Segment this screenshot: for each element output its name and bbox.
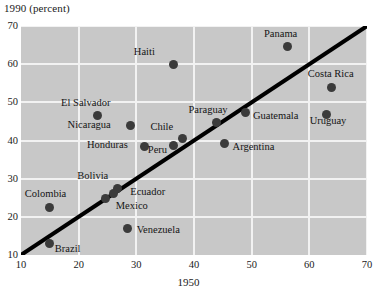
- data-point-label: Panama: [264, 28, 297, 39]
- data-point-label: Mexico: [116, 200, 148, 211]
- data-point-label: Bolivia: [77, 170, 108, 181]
- data-point: [327, 83, 336, 92]
- data-point: [109, 189, 118, 198]
- data-point: [45, 239, 54, 248]
- data-point: [126, 121, 135, 130]
- plot-area: HaitiPanamaCosta RicaEl SalvadorNicaragu…: [21, 26, 367, 255]
- y-tick-label: 60: [0, 59, 18, 69]
- data-point-label: Nicaragua: [68, 119, 111, 130]
- y-tick-label: 20: [0, 212, 18, 222]
- gridline-horizontal: [21, 63, 367, 65]
- y-axis-ticks: 10203040506070: [0, 26, 18, 255]
- y-tick-label: 40: [0, 136, 18, 146]
- data-point: [101, 194, 110, 203]
- data-point: [178, 134, 187, 143]
- data-point-label: Uruguay: [310, 115, 347, 126]
- data-point-label: Ecuador: [130, 186, 165, 197]
- x-axis-ticks: 10203040506070: [21, 259, 367, 273]
- gridline-horizontal: [21, 178, 367, 180]
- x-tick-label: 10: [6, 259, 36, 270]
- data-point: [220, 139, 229, 148]
- y-axis-title: 1990 (percent): [4, 2, 70, 14]
- data-point: [45, 203, 54, 212]
- gridline-horizontal: [21, 140, 367, 142]
- data-point-label: Chile: [150, 121, 173, 132]
- y-tick-label: 50: [0, 97, 18, 107]
- data-point-label: Colombia: [25, 188, 66, 199]
- data-point-label: Brazil: [55, 243, 81, 254]
- data-point-label: Argentina: [233, 141, 275, 152]
- data-point-label: Haiti: [134, 46, 155, 57]
- x-tick-label: 20: [64, 259, 94, 270]
- data-point-label: Paraguay: [188, 104, 227, 115]
- gridline-horizontal: [21, 216, 367, 218]
- data-point: [283, 42, 292, 51]
- x-tick-label: 60: [294, 259, 324, 270]
- data-point-label: Costa Rica: [308, 68, 354, 79]
- data-point: [212, 118, 221, 127]
- x-tick-label: 40: [179, 259, 209, 270]
- data-point: [123, 224, 132, 233]
- data-point-label: Venezuela: [137, 224, 180, 235]
- data-point: [241, 108, 250, 117]
- data-point-label: El Salvador: [61, 97, 110, 108]
- data-point: [169, 60, 178, 69]
- x-axis-title: 1950: [0, 276, 377, 288]
- data-point-label: Guatemala: [253, 110, 298, 121]
- data-point: [169, 141, 178, 150]
- x-tick-label: 70: [352, 259, 377, 270]
- gridline-horizontal: [21, 26, 367, 27]
- y-tick-label: 30: [0, 174, 18, 184]
- x-tick-label: 50: [237, 259, 267, 270]
- x-tick-label: 30: [121, 259, 151, 270]
- y-tick-label: 70: [0, 21, 18, 31]
- data-point-label: Honduras: [87, 139, 128, 150]
- data-point-label: Peru: [148, 144, 167, 155]
